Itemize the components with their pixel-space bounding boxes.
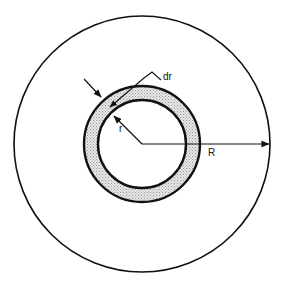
dr-outer-arrow	[84, 79, 101, 97]
annulus-diagram: dr r R	[0, 0, 281, 287]
label-dr: dr	[163, 71, 173, 82]
label-R: R	[208, 147, 215, 158]
